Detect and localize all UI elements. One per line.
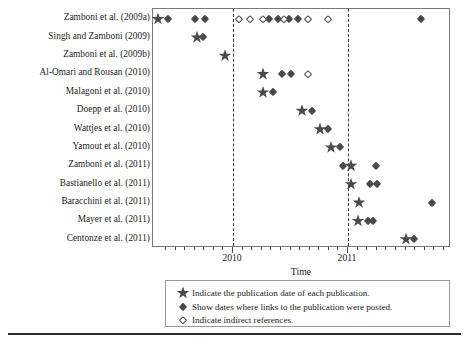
data-point-link-posted-date — [201, 15, 210, 24]
data-point-link-posted-date — [294, 15, 303, 24]
x-tick-minor — [184, 247, 185, 250]
y-axis-label: Yamout et al. (2010) — [0, 142, 150, 151]
x-tick-minor — [309, 247, 310, 250]
legend-label: Show dates where links to the publicatio… — [192, 302, 392, 312]
data-point-link-posted-date — [308, 106, 317, 115]
x-tick-label: 2010 — [222, 252, 241, 263]
data-point-publication-date — [152, 13, 165, 26]
x-tick-minor — [222, 247, 223, 250]
x-tick-minor — [414, 247, 415, 250]
legend-marker-filled-star-icon — [174, 286, 192, 300]
data-point-link-posted-date — [410, 235, 419, 244]
plot-area — [152, 8, 450, 247]
legend-entry: Indicate indirect references. — [174, 313, 293, 327]
x-tick-minor — [251, 247, 252, 250]
data-point-link-posted-date — [339, 161, 348, 170]
chart-legend: Indicate the publication date of each pu… — [165, 280, 450, 327]
y-axis-label: Centonze et al. (2011) — [0, 234, 150, 243]
legend-label: Indicate indirect references. — [192, 315, 293, 325]
y-axis-label: Wattjes et al. (2010) — [0, 124, 150, 133]
data-point-link-posted-date — [373, 180, 382, 189]
data-point-link-posted-date — [287, 70, 296, 79]
x-tick-minor — [175, 247, 176, 250]
x-tick-minor — [385, 247, 386, 250]
x-tick-minor — [318, 247, 319, 250]
data-point-link-posted-date — [164, 15, 173, 24]
data-point-publication-date — [345, 178, 358, 191]
x-tick-minor — [270, 247, 271, 250]
y-axis-label: Zamboni et al. (2009b) — [0, 50, 150, 59]
legend-entry: Indicate the publication date of each pu… — [174, 286, 370, 300]
legend-marker-open-diamond-icon — [174, 313, 192, 327]
x-tick-minor — [299, 247, 300, 250]
y-axis-label: Singh and Zamboni (2009) — [0, 32, 150, 41]
y-axis-label: Bastianello et al. (2011) — [0, 179, 150, 188]
chart-figure: Zamboni et al. (2009a)Singh and Zamboni … — [0, 0, 469, 343]
data-point-link-posted-date — [369, 216, 378, 225]
y-axis-label: Doepp et al. (2010) — [0, 105, 150, 114]
x-tick-minor — [376, 247, 377, 250]
x-tick-minor — [366, 247, 367, 250]
x-tick-minor — [424, 247, 425, 250]
data-point-indirect-reference — [324, 15, 332, 23]
x-tick-minor — [194, 247, 195, 250]
data-point-indirect-reference — [246, 15, 254, 23]
x-tick-label: 2011 — [338, 252, 357, 263]
x-tick-minor — [443, 247, 444, 250]
x-tick-minor — [328, 247, 329, 250]
y-axis-label: Zamboni et al. (2009a) — [0, 13, 150, 22]
data-point-indirect-reference — [304, 15, 312, 23]
x-tick-minor — [242, 247, 243, 250]
x-tick-minor — [395, 247, 396, 250]
x-axis-ticks: 20102011 — [152, 247, 450, 254]
legend-entry: Show dates where links to the publicatio… — [174, 300, 392, 314]
x-tick-minor — [165, 247, 166, 250]
y-axis-label: Malagoni et al. (2010) — [0, 87, 150, 96]
x-tick-minor — [261, 247, 262, 250]
data-point-publication-date — [219, 49, 232, 62]
y-axis-label: Baracchini et al. (2011) — [0, 197, 150, 206]
data-point-indirect-reference — [304, 70, 312, 78]
reference-line-2011 — [348, 9, 349, 246]
y-axis-labels: Zamboni et al. (2009a)Singh and Zamboni … — [0, 0, 150, 250]
data-point-publication-date — [257, 86, 270, 99]
x-tick-minor — [290, 247, 291, 250]
legend-marker-filled-diamond-icon — [174, 300, 192, 314]
x-tick-minor — [357, 247, 358, 250]
x-tick-minor — [280, 247, 281, 250]
bottom-rule — [8, 333, 461, 335]
data-point-link-posted-date — [191, 15, 200, 24]
y-axis-label: Al-Omari and Rousan (2010) — [0, 68, 150, 77]
data-point-link-posted-date — [417, 15, 426, 24]
data-point-publication-date — [352, 214, 365, 227]
data-point-publication-date — [257, 68, 270, 81]
reference-line-2010 — [233, 9, 234, 246]
data-point-link-posted-date — [428, 198, 437, 207]
data-point-publication-date — [353, 196, 366, 209]
x-tick-minor — [337, 247, 338, 250]
data-point-indirect-reference — [235, 15, 243, 23]
data-point-link-posted-date — [324, 125, 333, 134]
data-point-link-posted-date — [336, 143, 345, 152]
x-tick-minor — [213, 247, 214, 250]
data-point-link-posted-date — [372, 161, 381, 170]
x-axis-title: Time — [152, 266, 450, 277]
y-axis-label: Mayer et al. (2011) — [0, 215, 150, 224]
data-point-link-posted-date — [269, 88, 278, 97]
data-point-publication-date — [296, 104, 309, 117]
legend-label: Indicate the publication date of each pu… — [192, 288, 370, 298]
x-tick-minor — [433, 247, 434, 250]
x-tick-minor — [405, 247, 406, 250]
x-tick-minor — [203, 247, 204, 250]
data-point-link-posted-date — [278, 70, 287, 79]
y-axis-label: Zamboni et al. (2011) — [0, 160, 150, 169]
